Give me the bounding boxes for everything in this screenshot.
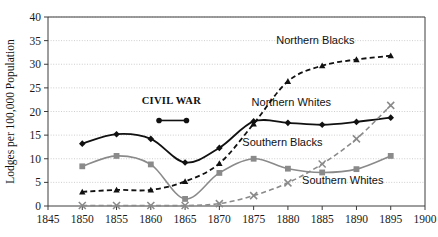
series-label-northern-blacks: Northern Blacks [276, 34, 355, 46]
y-tick-label-35: 35 [30, 35, 42, 47]
civil-war-label: CIVIL WAR [142, 95, 202, 106]
marker-southern-blacks-1880 [285, 166, 291, 172]
series-label-northern-whites: Northern Whites [252, 96, 332, 108]
series-label-southern-blacks: Southern Blacks [242, 136, 323, 148]
marker-southern-blacks-1895 [388, 153, 394, 159]
marker-southern-blacks-1875 [251, 156, 257, 162]
lodges-per-capita-line-chart: 0510152025303540 18451850185518601865187… [0, 0, 438, 237]
y-tick-label-40: 40 [30, 11, 42, 23]
marker-northern-whites-1865 [182, 159, 189, 166]
x-tick-label-1890: 1890 [345, 213, 368, 225]
y-tick-label-15: 15 [30, 129, 42, 141]
y-axis-title-text: Lodges per 100,000 Population [4, 39, 17, 184]
marker-northern-blacks-1865 [182, 178, 188, 184]
marker-southern-whites-1890 [353, 135, 360, 142]
x-tick-label-1850: 1850 [71, 213, 94, 225]
x-tick-label-1900: 1900 [414, 213, 437, 225]
marker-northern-whites-1895 [387, 114, 394, 121]
x-tick-label-1895: 1895 [379, 213, 402, 225]
y-tick-label-20: 20 [30, 106, 42, 118]
marker-northern-whites-1850 [79, 140, 86, 147]
series-inline-labels: Northern BlacksNorthern WhitesSouthern B… [242, 34, 384, 186]
x-tick-label-1860: 1860 [139, 213, 162, 225]
y-tick-label-30: 30 [30, 58, 42, 70]
marker-northern-whites-1885 [319, 121, 326, 128]
x-tick-label-1880: 1880 [276, 213, 299, 225]
marker-southern-blacks-1855 [114, 153, 120, 159]
y-tick-label-10: 10 [30, 153, 42, 165]
civil-war-annotation: CIVIL WAR [142, 95, 202, 123]
x-tick-label-1870: 1870 [208, 213, 231, 225]
marker-northern-whites-1880 [285, 120, 292, 127]
marker-southern-blacks-1865 [182, 196, 188, 202]
marker-northern-whites-1855 [113, 131, 120, 138]
marker-southern-blacks-1890 [354, 166, 360, 172]
marker-southern-blacks-1850 [79, 163, 85, 169]
marker-northern-whites-1890 [353, 119, 360, 126]
marker-southern-blacks-1870 [216, 170, 222, 176]
y-axis-title: Lodges per 100,000 Population [4, 39, 17, 184]
series-label-southern-whites: Southern Whites [302, 174, 384, 186]
civil-war-bar-end-dot [184, 118, 190, 124]
x-tick-label-1875: 1875 [242, 213, 265, 225]
marker-southern-whites-1885 [319, 160, 326, 167]
marker-northern-whites-1860 [148, 136, 155, 143]
x-tick-label-1855: 1855 [105, 213, 128, 225]
x-tick-label-1885: 1885 [311, 213, 334, 225]
marker-northern-blacks-1870 [216, 160, 222, 166]
chart-canvas: 0510152025303540 18451850185518601865187… [0, 0, 438, 237]
marker-southern-blacks-1860 [148, 162, 154, 168]
y-axis-ticks: 0510152025303540 [30, 11, 49, 212]
x-tick-label-1865: 1865 [174, 213, 197, 225]
x-tick-label-1845: 1845 [37, 213, 60, 225]
y-tick-label-5: 5 [35, 176, 41, 188]
marker-northern-blacks-1880 [285, 78, 291, 84]
marker-southern-whites-1895 [387, 102, 394, 109]
marker-southern-whites-1880 [284, 179, 291, 186]
y-tick-label-25: 25 [30, 82, 42, 94]
series-line-southern-whites [82, 105, 390, 205]
x-axis-ticks: 1845185018551860186518701875188018851890… [37, 206, 437, 225]
y-tick-label-0: 0 [35, 200, 41, 212]
civil-war-bar-start-dot [156, 118, 162, 124]
